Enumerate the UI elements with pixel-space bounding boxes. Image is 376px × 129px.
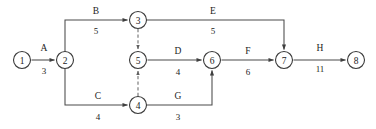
node-5[interactable]: 5	[130, 52, 147, 69]
edge-duration-a: 3	[42, 66, 47, 76]
edge-name-c: C	[95, 91, 101, 101]
node-label-4: 4	[136, 101, 141, 111]
edge-name-b: B	[93, 6, 99, 16]
edge-duration-f: 6	[246, 67, 251, 77]
node-label-8: 8	[354, 56, 359, 66]
node-label-1: 1	[20, 56, 25, 66]
edge-duration-b: 5	[94, 26, 99, 36]
network-diagram: A3B5C4D4E5F6G3H11 12345678	[0, 0, 376, 129]
node-1[interactable]: 1	[14, 52, 31, 69]
nodes-layer: 12345678	[14, 12, 365, 114]
node-4[interactable]: 4	[130, 97, 147, 114]
edge-duration-h: 11	[316, 64, 325, 74]
edge-duration-c: 4	[96, 112, 101, 122]
node-label-7: 7	[282, 56, 287, 66]
node-label-3: 3	[136, 16, 141, 26]
edge-e	[147, 20, 284, 50]
node-label-2: 2	[63, 56, 68, 66]
node-label-6: 6	[210, 56, 215, 66]
node-3[interactable]: 3	[130, 12, 147, 29]
edge-name-g: G	[175, 91, 182, 101]
edge-duration-g: 3	[176, 112, 181, 122]
edge-name-d: D	[175, 46, 182, 56]
edge-duration-d: 4	[176, 67, 181, 77]
edge-name-a: A	[41, 43, 48, 53]
edge-name-e: E	[210, 6, 216, 16]
node-6[interactable]: 6	[204, 52, 221, 69]
edge-name-f: F	[245, 46, 250, 56]
edges-layer	[32, 20, 346, 105]
network-diagram-canvas: A3B5C4D4E5F6G3H11 12345678	[0, 0, 376, 129]
node-8[interactable]: 8	[348, 52, 365, 69]
edge-duration-e: 5	[211, 26, 216, 36]
edge-name-h: H	[317, 43, 324, 53]
node-2[interactable]: 2	[57, 52, 74, 69]
node-label-5: 5	[136, 56, 141, 66]
node-7[interactable]: 7	[276, 52, 293, 69]
